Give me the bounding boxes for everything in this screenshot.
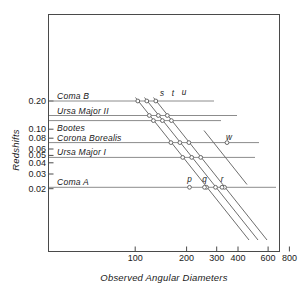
y-tick-label: 0.08 [28, 133, 46, 143]
x-tick-label: 400 [230, 253, 245, 263]
data-point [170, 119, 174, 123]
data-point-r [220, 185, 224, 189]
y-axis-title: Redshifts [10, 129, 21, 170]
x-tick-label: 300 [209, 253, 224, 263]
cluster-label-coma-a: Coma A [57, 177, 89, 187]
data-point [165, 114, 169, 118]
data-point-q [203, 185, 207, 189]
data-point [178, 141, 182, 145]
x-tick-label: 200 [179, 253, 194, 263]
cluster-label-coma-b: Coma B [57, 91, 89, 101]
y-tick-label: 0.04 [28, 158, 46, 168]
data-point [187, 141, 191, 145]
data-point [152, 119, 156, 123]
data-point [136, 99, 140, 103]
x-tick-label: 800 [282, 253, 297, 263]
y-tick-label: 0.02 [28, 184, 46, 194]
data-point [181, 156, 185, 160]
cluster-label-ursa-major-ii: Ursa Major II [57, 106, 109, 116]
fit-lines [136, 98, 268, 241]
x-axis-title: Observed Angular Diameters [100, 272, 227, 283]
cluster-label-ursa-major-i: Ursa Major I [57, 147, 107, 157]
cluster-label-bootes: Bootes [57, 123, 85, 133]
redshift-angular-diameter-chart: 0.20 0.10 0.08 0.06 0.05 0.04 0.03 0.02 … [0, 0, 299, 295]
series-label-s: s [160, 89, 164, 98]
data-point [225, 141, 229, 145]
y-axis-ticks [49, 101, 54, 189]
x-tick-label: 600 [261, 253, 276, 263]
data-point [199, 156, 203, 160]
data-point [161, 119, 165, 123]
x-tick-label: 100 [128, 253, 143, 263]
y-tick-label: 0.03 [28, 169, 46, 179]
series-label-t: t [172, 89, 175, 98]
y-tick-label: 0.20 [28, 96, 46, 106]
point-label-p: p [186, 175, 192, 184]
x-axis-tick-labels: 100 200 300 400 600 800 [128, 253, 297, 263]
data-point [147, 114, 151, 118]
point-label-q: q [202, 175, 207, 184]
data-markers-w [225, 141, 229, 145]
x-axis-ticks [135, 247, 289, 252]
data-point [156, 114, 160, 118]
series-label-u: u [182, 88, 187, 97]
data-point [145, 99, 149, 103]
point-label-r: r [221, 175, 224, 184]
y-axis-tick-labels: 0.20 0.10 0.08 0.06 0.05 0.04 0.03 0.02 [28, 96, 46, 194]
data-point [154, 99, 158, 103]
cluster-name-labels: Coma B Ursa Major II Bootes Corona Borea… [57, 91, 122, 187]
data-point [214, 185, 218, 189]
data-point [190, 156, 194, 160]
cluster-label-corona-borealis: Corona Borealis [57, 133, 122, 143]
data-point [169, 141, 173, 145]
data-point-p [188, 185, 192, 189]
chart-figure: 0.20 0.10 0.08 0.06 0.05 0.04 0.03 0.02 … [0, 0, 299, 295]
